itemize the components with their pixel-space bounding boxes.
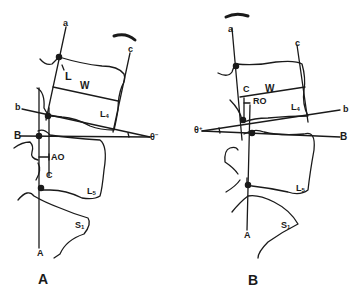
label-line-C: C [243, 85, 250, 94]
label-vertebra-l5: L5 [87, 187, 96, 196]
label-line-A: A [244, 231, 251, 240]
label-vertebra-l4: L4 [291, 103, 300, 112]
spine-diagram: a c L W b L4 B θ− AO C L5 S1 A A a c C W… [0, 0, 358, 297]
label-line-c: c [128, 45, 133, 54]
diagram-drawing [0, 0, 358, 297]
panel-b-caption: B [248, 273, 258, 287]
label-width-w: W [265, 84, 274, 94]
label-line-B: B [340, 132, 347, 142]
label-angle-theta-negative: θ− [150, 132, 158, 142]
label-angle-theta-positive: θ+ [194, 125, 202, 135]
label-vertebra-l5: L5 [296, 184, 305, 193]
label-line-c: c [295, 39, 300, 48]
label-sacrum-s1: S1 [75, 221, 84, 230]
label-vertebra-l4: L4 [100, 110, 109, 119]
label-line-a: a [63, 19, 68, 28]
label-point-l: L [65, 71, 72, 82]
label-line-b: b [343, 105, 349, 114]
label-line-C: C [46, 171, 53, 180]
label-line-A: A [37, 249, 44, 258]
label-sacrum-s1: S1 [281, 221, 290, 230]
label-offset-ao: AO [51, 153, 65, 162]
label-offset-ro: RO [253, 97, 267, 106]
label-width-w: W [80, 81, 89, 91]
panel-a-caption: A [38, 272, 48, 286]
label-line-B: B [14, 131, 21, 141]
panel-b-drawing [202, 14, 340, 258]
label-line-a: a [228, 25, 233, 34]
label-line-b: b [15, 103, 21, 112]
